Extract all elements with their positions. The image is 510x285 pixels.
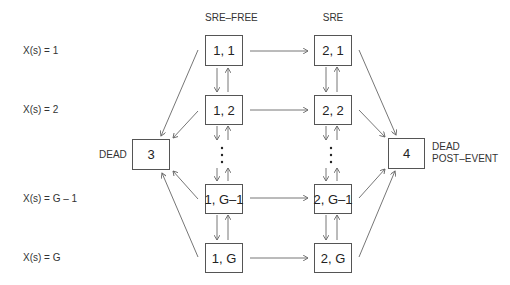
column-header-sre: SRE (314, 12, 352, 24)
state-box-2-g: 2, G (314, 243, 352, 273)
state-box-2-1: 2, 1 (314, 35, 352, 66)
dead-label: DEAD (99, 149, 127, 161)
state-box-dead-post-event: 4 (388, 138, 425, 169)
state-box-1-g-minus-1: 1, G–1 (205, 184, 243, 214)
state-box-2-2: 2, 2 (314, 95, 352, 125)
state-box-2-g-minus-1: 2, G–1 (314, 184, 352, 214)
ellipsis-col1 (217, 146, 227, 164)
state-box-1-1: 1, 1 (205, 35, 243, 66)
dead-post-event-label-line2: POST–EVENT (432, 153, 498, 165)
ellipsis-col2 (326, 146, 336, 164)
row-label-g: X(s) = G (23, 252, 61, 264)
row-label-2: X(s) = 2 (23, 104, 58, 116)
multistate-model-diagram: SRE–FREE SRE X(s) = 1 X(s) = 2 X(s) = G … (0, 0, 510, 285)
column-header-sre-free: SRE–FREE (205, 12, 243, 24)
state-box-dead: 3 (132, 139, 170, 170)
dead-post-event-label-line1: DEAD (432, 141, 460, 153)
row-label-g-minus-1: X(s) = G – 1 (23, 193, 77, 205)
row-label-1: X(s) = 1 (23, 45, 58, 57)
state-box-1-g: 1, G (205, 243, 243, 273)
state-box-1-2: 1, 2 (205, 95, 243, 125)
